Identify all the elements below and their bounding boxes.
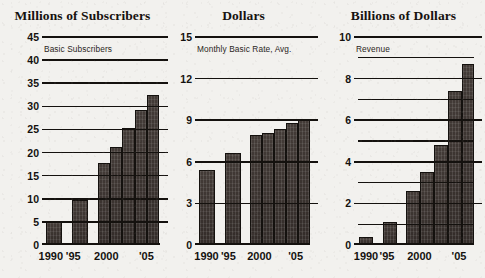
- plot-area-monthly-rate: Monthly Basic Rate, Avg. 03691215: [195, 37, 310, 245]
- gridline: [42, 175, 168, 177]
- y-axis-tick-label: 6: [186, 156, 192, 168]
- gridline: [42, 221, 168, 223]
- gridline: [42, 129, 168, 131]
- three-panel-bar-chart-figure: Millions of Subscribers Basic Subscriber…: [0, 0, 485, 278]
- x-axis-line-monthly-rate: [195, 243, 310, 245]
- chart-title-revenue: Billions of Dollars: [322, 8, 485, 24]
- y-axis-tick-label: 10: [339, 31, 351, 43]
- x-axis-tick-label: 1990: [194, 250, 218, 262]
- bar: [383, 222, 397, 245]
- gridline: [195, 161, 318, 163]
- y-axis-tick-label: 8: [345, 73, 351, 85]
- x-axis-tick-label: '05: [139, 250, 154, 262]
- bar: [274, 129, 286, 245]
- gridline: [42, 198, 168, 200]
- y-axis-tick-label: 10: [27, 193, 39, 205]
- x-axis-tick-label: 2000: [247, 250, 271, 262]
- y-axis-tick-label: 0: [186, 239, 192, 251]
- gridline: [42, 59, 168, 61]
- y-axis-tick-label: 40: [27, 54, 39, 66]
- bar: [448, 91, 462, 245]
- y-axis-tick-label: 25: [27, 123, 39, 135]
- gridline: [42, 106, 168, 108]
- gridline: [42, 82, 168, 84]
- y-axis-tick-label: 0: [345, 239, 351, 251]
- chart-panel-revenue: Billions of Dollars Revenue 0246810 1990…: [322, 0, 485, 278]
- y-axis-tick-label: 20: [27, 147, 39, 159]
- y-axis-tick-label: 15: [27, 170, 39, 182]
- plot-area-revenue: Revenue 0246810: [354, 37, 474, 245]
- bar: [262, 133, 274, 245]
- minor-gridline: [358, 99, 474, 100]
- y-axis-tick-label: 30: [27, 100, 39, 112]
- gridline: [42, 36, 168, 38]
- plot-area-subscribers: Basic Subscribers 051015202530354045: [42, 37, 160, 245]
- y-axis-tick-label: 5: [33, 216, 39, 228]
- bar: [46, 222, 62, 245]
- minor-gridline: [358, 182, 474, 183]
- chart-panel-subscribers: Millions of Subscribers Basic Subscriber…: [0, 0, 165, 278]
- x-axis-line-revenue: [354, 243, 474, 245]
- gridline: [195, 203, 318, 205]
- bar: [298, 119, 310, 245]
- gridline: [354, 36, 482, 38]
- y-axis-tick-label: 15: [180, 31, 192, 43]
- y-axis-tick-label: 6: [345, 114, 351, 126]
- gridline: [195, 78, 318, 80]
- bar: [199, 170, 215, 245]
- bar: [406, 191, 420, 245]
- bar: [110, 147, 122, 245]
- x-axis-tick-label: '05: [452, 250, 467, 262]
- y-axis-tick-label: 4: [345, 156, 351, 168]
- bar: [225, 153, 241, 245]
- x-axis-tick-label: '95: [66, 250, 81, 262]
- bar-series-subscribers: [42, 37, 160, 245]
- y-axis-tick-label: 12: [180, 73, 192, 85]
- x-axis-tick-label: 2000: [407, 250, 431, 262]
- bar: [462, 64, 474, 245]
- gridline: [354, 161, 482, 163]
- bar: [286, 123, 298, 245]
- chart-title-dollars: Dollars: [165, 8, 322, 24]
- y-axis-tick-label: 9: [186, 114, 192, 126]
- gridline: [195, 119, 318, 121]
- gridline: [354, 203, 482, 205]
- y-axis-tick-label: 35: [27, 77, 39, 89]
- x-axis-tick-label: '95: [221, 250, 236, 262]
- minor-gridline: [358, 140, 474, 141]
- x-axis-line-subscribers: [42, 243, 160, 245]
- gridline: [42, 152, 168, 154]
- y-axis-tick-label: 2: [345, 197, 351, 209]
- x-axis-tick-label: 1990: [39, 250, 63, 262]
- y-axis-tick-label: 3: [186, 197, 192, 209]
- bar-series-monthly-rate: [195, 37, 310, 245]
- bar: [250, 135, 262, 245]
- chart-panel-monthly-rate: Dollars Monthly Basic Rate, Avg. 0369121…: [165, 0, 322, 278]
- gridline: [354, 119, 482, 121]
- minor-gridline: [358, 57, 474, 58]
- x-axis-tick-label: '95: [380, 250, 395, 262]
- x-axis-tick-label: 1990: [354, 250, 378, 262]
- minor-gridline: [358, 224, 474, 225]
- y-axis-tick-label: 45: [27, 31, 39, 43]
- x-axis-tick-label: '05: [288, 250, 303, 262]
- gridline: [354, 78, 482, 80]
- gridline: [195, 36, 318, 38]
- chart-title-subscribers: Millions of Subscribers: [0, 8, 165, 24]
- bar: [122, 128, 134, 245]
- x-axis-tick-label: 2000: [94, 250, 118, 262]
